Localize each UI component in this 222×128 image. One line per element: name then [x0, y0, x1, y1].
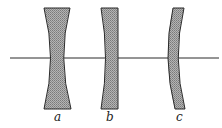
- label-c: c: [176, 110, 183, 124]
- label-b: b: [106, 110, 114, 124]
- lens-diagram: a b c: [0, 0, 222, 128]
- label-a: a: [54, 110, 61, 124]
